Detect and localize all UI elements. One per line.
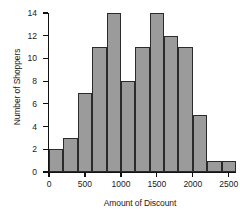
- y-tick-label: 14: [3, 8, 37, 18]
- y-tick-label: 6: [3, 99, 37, 109]
- histogram-bar: [63, 138, 77, 172]
- y-tick-mark: [43, 58, 48, 59]
- histogram-bar: [49, 149, 63, 172]
- x-tick-label: 500: [65, 179, 105, 189]
- x-tick-mark: [84, 172, 85, 177]
- histogram-bar: [135, 47, 149, 172]
- y-tick-mark: [43, 171, 48, 172]
- x-tick-mark: [120, 172, 121, 177]
- histogram-bar: [107, 13, 121, 172]
- x-tick-mark: [48, 172, 49, 177]
- y-tick-label: 4: [3, 122, 37, 132]
- x-axis-title: Amount of Discount: [42, 198, 238, 208]
- histogram-bar: [121, 81, 135, 172]
- x-tick-label: 1500: [137, 179, 177, 189]
- histogram-figure: Number of Shoppers Amount of Discount 02…: [0, 0, 240, 219]
- plot-area: [49, 13, 236, 172]
- histogram-bar: [92, 47, 106, 172]
- x-tick-label: 0: [29, 179, 69, 189]
- y-tick-label: 10: [3, 53, 37, 63]
- x-tick-label: 1000: [101, 179, 141, 189]
- x-tick-mark: [156, 172, 157, 177]
- histogram-bar: [178, 47, 192, 172]
- y-tick-mark: [43, 12, 48, 13]
- y-tick-mark: [43, 81, 48, 82]
- y-tick-mark: [43, 103, 48, 104]
- y-tick-label: 0: [3, 167, 37, 177]
- x-tick-label: 2500: [209, 179, 240, 189]
- x-tick-label: 2000: [173, 179, 213, 189]
- y-tick-mark: [43, 149, 48, 150]
- histogram-bar: [150, 13, 164, 172]
- y-tick-label: 8: [3, 76, 37, 86]
- histogram-bar: [78, 93, 92, 173]
- y-tick-mark: [43, 35, 48, 36]
- histogram-bar: [164, 36, 178, 172]
- y-tick-label: 2: [3, 144, 37, 154]
- histogram-bar: [222, 161, 236, 172]
- y-tick-mark: [43, 126, 48, 127]
- x-tick-mark: [228, 172, 229, 177]
- histogram-bar: [193, 115, 207, 172]
- y-tick-label: 12: [3, 31, 37, 41]
- x-tick-mark: [192, 172, 193, 177]
- histogram-bar: [207, 161, 221, 172]
